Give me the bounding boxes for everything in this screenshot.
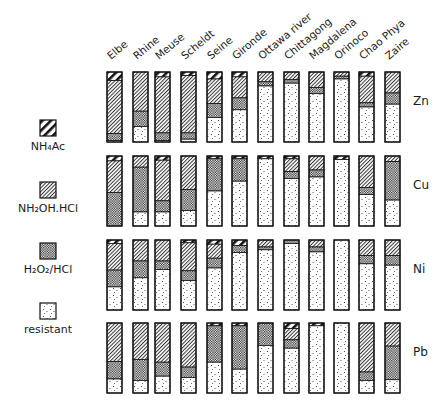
- bar: [232, 240, 247, 310]
- bar-segment-h2o2: [155, 362, 170, 376]
- bar-segment-h2o2: [385, 162, 400, 201]
- bar-segment-resistant: [232, 369, 247, 393]
- bar: [232, 323, 247, 393]
- bar: [284, 240, 299, 310]
- bar-segment-resistant: [309, 177, 324, 226]
- bar-segment-h2o2: [385, 255, 400, 265]
- bar-segment-h2o2: [181, 271, 196, 281]
- bar-segment-nh2oh: [284, 72, 299, 80]
- bar: [107, 323, 122, 393]
- bar: [207, 156, 222, 226]
- bar-segment-resistant: [334, 323, 349, 393]
- bar: [155, 240, 170, 310]
- bar-segment-resistant: [232, 181, 247, 226]
- bar-segment-h2o2: [309, 87, 324, 93]
- bar: [107, 240, 122, 310]
- bar: [309, 323, 324, 393]
- bar-segment-nh4ac: [107, 72, 122, 80]
- bar-segment-h2o2: [232, 326, 247, 369]
- bar-segment-nh2oh: [258, 240, 273, 247]
- bar-segment-resistant: [258, 250, 273, 310]
- bar-segment-nh2oh: [309, 156, 324, 170]
- bar-segment-h2o2: [258, 247, 273, 250]
- bar-segment-nh2oh: [385, 240, 400, 255]
- bar-segment-h2o2: [334, 76, 349, 79]
- bar-segment-resistant: [284, 244, 299, 311]
- bar: [107, 156, 122, 226]
- bar-segment-h2o2: [258, 323, 273, 345]
- legend-swatch-nh4ac: [40, 120, 56, 136]
- bar-segment-resistant: [133, 212, 148, 226]
- bar: [133, 240, 148, 310]
- bar: [155, 72, 170, 142]
- bar: [359, 72, 374, 142]
- bar-segment-nh2oh: [232, 77, 247, 98]
- bar-segment-h2o2: [309, 247, 324, 252]
- panel-cu: Cu: [107, 156, 429, 226]
- bar-segment-resistant: [155, 376, 170, 393]
- bar-segment-h2o2: [284, 340, 299, 348]
- legend-label: NH₂OH.HCl: [18, 202, 78, 215]
- river-label: Elbe: [105, 38, 130, 62]
- bar: [258, 156, 273, 226]
- bar-segment-resistant: [232, 110, 247, 142]
- bar-segment-h2o2: [181, 190, 196, 211]
- bar: [232, 156, 247, 226]
- bar-segment-h2o2: [309, 170, 324, 177]
- bar-segment-h2o2: [359, 103, 374, 107]
- bar-segment-resistant: [385, 380, 400, 393]
- legend-swatch-resistant: [40, 303, 56, 319]
- bar-segment-resistant: [133, 278, 148, 310]
- panel-zn: Zn: [107, 72, 429, 142]
- bar-segment-resistant: [258, 159, 273, 226]
- bar-segment-nh2oh: [309, 240, 324, 247]
- bar: [181, 156, 196, 226]
- bar-segment-h2o2: [181, 367, 196, 378]
- bar: [181, 240, 196, 310]
- bar-segment-h2o2: [181, 133, 196, 139]
- bar-segment-resistant: [385, 200, 400, 226]
- bar-segment-resistant: [207, 362, 222, 393]
- bar-segment-h2o2: [284, 171, 299, 178]
- bar-segment-resistant: [385, 265, 400, 310]
- legend-label: H₂O₂/HCl: [24, 263, 72, 276]
- bar-segment-nh2oh: [155, 77, 170, 133]
- chart-panels: ZnCuNiPb: [107, 72, 429, 393]
- legend: NH₄AcNH₂OH.HClH₂O₂/HClresistant: [18, 120, 78, 336]
- bar: [385, 240, 400, 310]
- bar-segment-nh2oh: [107, 244, 122, 271]
- bar-segment-h2o2: [232, 98, 247, 110]
- bar: [359, 240, 374, 310]
- bar-segment-resistant: [309, 252, 324, 310]
- bar-segment-nh2oh: [155, 323, 170, 362]
- bar: [309, 240, 324, 310]
- bar: [133, 72, 148, 142]
- stacked-bar-chart: NH₄AcNH₂OH.HClH₂O₂/HClresistant ElbeRhin…: [0, 0, 434, 407]
- bar-segment-resistant: [155, 212, 170, 226]
- bar: [309, 72, 324, 142]
- bar-segment-h2o2: [155, 133, 170, 141]
- bar: [284, 323, 299, 393]
- bar: [334, 323, 349, 393]
- bar-segment-resistant: [207, 191, 222, 226]
- bar-segment-resistant: [181, 211, 196, 226]
- bar-segment-nh4ac: [284, 323, 299, 329]
- bar-segment-resistant: [359, 107, 374, 142]
- bar: [284, 72, 299, 142]
- bar: [207, 72, 222, 142]
- bar-segment-h2o2: [207, 258, 222, 268]
- bar-segment-h2o2: [207, 159, 222, 191]
- bar-segment-nh4ac: [155, 72, 170, 77]
- element-label: Ni: [413, 262, 425, 276]
- bar: [385, 72, 400, 142]
- bar-segment-h2o2: [232, 159, 247, 181]
- bar-segment-nh2oh: [107, 161, 122, 193]
- bar-segment-nh2oh: [181, 76, 196, 133]
- bar-segment-nh2oh: [107, 80, 122, 133]
- element-label: Pb: [413, 345, 428, 359]
- bar-segment-h2o2: [207, 326, 222, 362]
- bar-segment-h2o2: [107, 192, 122, 226]
- bar-segment-h2o2: [133, 359, 148, 380]
- bar-segment-h2o2: [359, 255, 374, 263]
- element-label: Zn: [413, 94, 429, 108]
